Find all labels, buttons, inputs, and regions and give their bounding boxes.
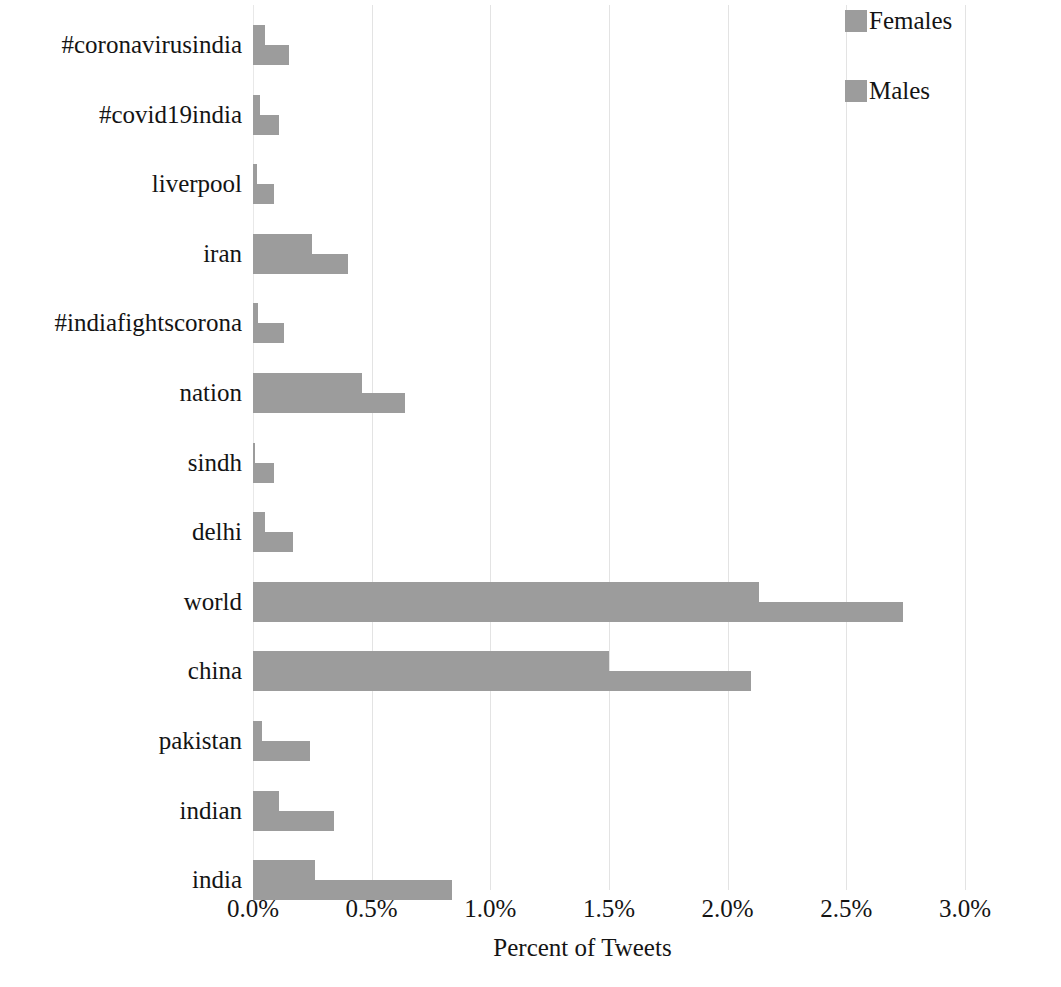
bar-chart: Term #coronavirusindia#covid19indialiver… — [0, 0, 1061, 987]
legend-swatch-icon — [845, 10, 867, 32]
bar-males-iran — [253, 254, 348, 274]
bar-females-delhi — [253, 512, 265, 532]
y-axis-label-nation: nation — [0, 380, 248, 405]
y-axis-label-liverpool: liverpool — [0, 171, 248, 196]
bar-males-covid19india — [253, 115, 279, 135]
y-axis-label-sindh: sindh — [0, 450, 248, 475]
bar-males-coronavirusindia — [253, 45, 289, 65]
y-axis-label-covid19india: #covid19india — [0, 102, 248, 127]
bar-males-sindh — [253, 463, 274, 483]
bar-males-pakistan — [253, 741, 310, 761]
bar-males-liverpool — [253, 184, 274, 204]
y-axis-label-china: china — [0, 658, 248, 683]
x-axis-tick-0.5%: 0.5% — [346, 894, 398, 924]
y-axis-label-world: world — [0, 589, 248, 614]
bar-group — [253, 443, 965, 483]
bar-group — [253, 512, 965, 552]
bar-group — [253, 303, 965, 343]
bar-males-world — [253, 602, 903, 622]
bar-males-delhi — [253, 532, 293, 552]
legend-swatch-icon — [845, 80, 867, 102]
bar-females-india — [253, 860, 315, 880]
y-axis-label-pakistan: pakistan — [0, 728, 248, 753]
bar-males-indian — [253, 811, 334, 831]
bar-females-liverpool — [253, 164, 257, 184]
x-axis-tick-0.0%: 0.0% — [227, 894, 279, 924]
bar-females-nation — [253, 373, 362, 393]
plot-area — [253, 5, 965, 890]
bar-females-indiafightscorona — [253, 303, 258, 323]
y-axis-label-delhi: delhi — [0, 519, 248, 544]
x-axis-tick-2.5%: 2.5% — [820, 894, 872, 924]
x-axis-tick-labels: 0.0%0.5%1.0%1.5%2.0%2.5%3.0% — [0, 894, 1061, 928]
x-axis-tick-2.0%: 2.0% — [702, 894, 754, 924]
y-axis-label-indian: indian — [0, 798, 248, 823]
bar-females-world — [253, 582, 759, 602]
bar-females-pakistan — [253, 721, 262, 741]
bar-females-covid19india — [253, 95, 260, 115]
bar-group — [253, 791, 965, 831]
bar-group — [253, 234, 965, 274]
x-axis-title-label: Percent of Tweets — [493, 934, 671, 961]
y-axis-label-coronavirusindia: #coronavirusindia — [0, 32, 248, 57]
bar-group — [253, 373, 965, 413]
x-axis-tick-3.0%: 3.0% — [939, 894, 991, 924]
bar-males-china — [253, 671, 751, 691]
gridline-3.0% — [965, 5, 966, 890]
y-axis-label-india: india — [0, 867, 248, 892]
legend-item-females[interactable]: Females — [845, 8, 952, 33]
bar-males-indiafightscorona — [253, 323, 284, 343]
y-axis-label-indiafightscorona: #indiafightscorona — [0, 310, 248, 335]
bar-males-nation — [253, 393, 405, 413]
bar-group — [253, 164, 965, 204]
legend-item-males[interactable]: Males — [845, 78, 930, 103]
bar-group — [253, 651, 965, 691]
x-axis-title: Percent of Tweets — [0, 934, 1061, 962]
bar-females-indian — [253, 791, 279, 811]
x-axis-tick-1.5%: 1.5% — [583, 894, 635, 924]
bar-group — [253, 721, 965, 761]
legend-label: Males — [869, 78, 930, 103]
bar-females-china — [253, 651, 609, 671]
bar-females-coronavirusindia — [253, 25, 265, 45]
x-axis-tick-1.0%: 1.0% — [464, 894, 516, 924]
y-axis-label-iran: iran — [0, 241, 248, 266]
bar-females-sindh — [253, 443, 255, 463]
legend-label: Females — [869, 8, 952, 33]
bar-group — [253, 582, 965, 622]
y-axis-tick-labels: #coronavirusindia#covid19indialiverpooli… — [0, 0, 248, 987]
bar-females-iran — [253, 234, 312, 254]
